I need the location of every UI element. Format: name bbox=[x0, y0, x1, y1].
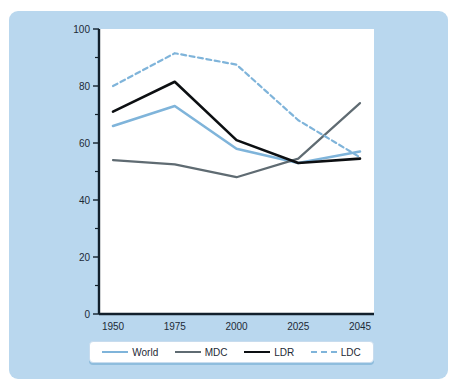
legend-swatch-world bbox=[102, 351, 128, 353]
legend-item-mdc[interactable]: MDC bbox=[175, 347, 228, 358]
legend-swatch-ldr bbox=[244, 351, 270, 353]
x-tick-label: 1950 bbox=[102, 321, 125, 332]
x-tick-label: 2000 bbox=[225, 321, 248, 332]
legend-label: World bbox=[132, 347, 158, 358]
series-line-ldc bbox=[113, 53, 360, 157]
x-tick-label: 1975 bbox=[164, 321, 187, 332]
y-tick-label: 40 bbox=[79, 195, 91, 206]
legend-label: LDC bbox=[341, 347, 361, 358]
legend-item-ldr[interactable]: LDR bbox=[244, 347, 294, 358]
y-axis-group: 020406080100 bbox=[73, 24, 99, 320]
legend-label: LDR bbox=[274, 347, 294, 358]
y-tick-label: 20 bbox=[79, 252, 91, 263]
legend-item-ldc[interactable]: LDC bbox=[311, 347, 361, 358]
legend-swatch-mdc bbox=[175, 351, 201, 353]
series-line-ldr bbox=[113, 82, 360, 163]
x-axis-group: 19501975200020252045 bbox=[99, 314, 374, 332]
x-tick-labels: 19501975200020252045 bbox=[102, 321, 372, 332]
data-series-group bbox=[113, 53, 360, 177]
series-line-world bbox=[113, 106, 360, 163]
legend-label: MDC bbox=[205, 347, 228, 358]
y-tick-label: 60 bbox=[79, 138, 91, 149]
x-tick-label: 2045 bbox=[349, 321, 372, 332]
legend-item-world[interactable]: World bbox=[102, 347, 158, 358]
figure-root: 020406080100 19501975200020252045 WorldM… bbox=[0, 0, 457, 388]
y-tick-label: 0 bbox=[84, 309, 90, 320]
y-tick-label: 80 bbox=[79, 81, 91, 92]
legend-swatch-ldc bbox=[311, 351, 337, 353]
y-tick-label: 100 bbox=[73, 24, 90, 35]
y-tick-labels: 020406080100 bbox=[73, 24, 90, 320]
chart-legend: WorldMDCLDRLDC bbox=[89, 341, 374, 363]
x-tick-label: 2025 bbox=[287, 321, 310, 332]
line-chart: 020406080100 19501975200020252045 bbox=[0, 0, 457, 388]
